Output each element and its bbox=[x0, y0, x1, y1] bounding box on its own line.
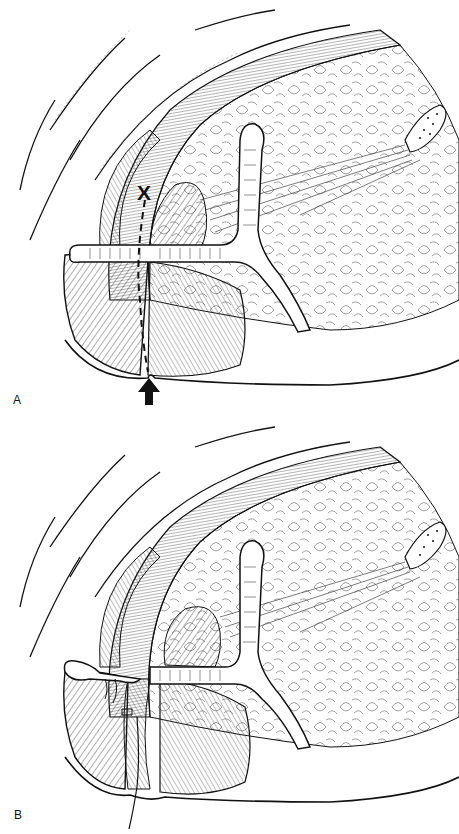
panel-label-a: A bbox=[13, 393, 21, 407]
anatomy-illustration-b bbox=[0, 417, 459, 834]
overlap-tissue bbox=[124, 679, 150, 789]
up-arrow-icon bbox=[138, 378, 160, 405]
panel-b: B bbox=[0, 417, 459, 834]
panel-a: X A bbox=[0, 0, 459, 417]
muscle-left bbox=[64, 671, 128, 789]
x-marker: X bbox=[137, 182, 151, 203]
panel-label-b: B bbox=[14, 808, 22, 822]
anatomy-illustration-a bbox=[0, 0, 459, 417]
muscle-left bbox=[64, 253, 148, 375]
